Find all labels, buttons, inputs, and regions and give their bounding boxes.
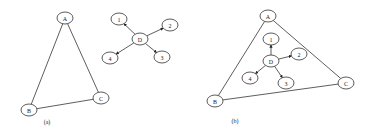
node-3: 3	[278, 77, 294, 89]
node-2: 2	[291, 48, 307, 60]
panel-caption: (a)	[44, 119, 51, 126]
edge-D-2	[147, 28, 163, 36]
node-label: D	[138, 37, 143, 43]
edge-D-3	[275, 66, 283, 77]
node-B: B	[207, 95, 223, 107]
node-label: A	[63, 16, 68, 22]
node-B: B	[21, 104, 37, 116]
graph-diagram: ABCD1234(a) ABCD1234(b)	[0, 0, 372, 132]
node-4: 4	[102, 52, 118, 64]
node-label: 4	[109, 56, 112, 62]
node-2: 2	[162, 19, 178, 31]
node-1: 1	[111, 13, 127, 25]
edge-D-3	[145, 43, 156, 52]
edge-D-1	[124, 24, 135, 35]
edge-D-2	[279, 56, 292, 59]
node-label: B	[213, 99, 217, 105]
node-D: D	[132, 33, 148, 45]
edge-A-C	[273, 21, 340, 79]
panel-a: ABCD1234(a)	[21, 12, 178, 126]
node-C: C	[93, 92, 109, 104]
node-label: 1	[118, 17, 121, 23]
node-label: D	[269, 59, 274, 65]
node-label: 3	[161, 55, 164, 61]
panel-b: ABCD1234(b)	[207, 10, 354, 125]
node-label: C	[344, 81, 348, 87]
edge-D-4	[255, 65, 265, 73]
node-label: 2	[169, 23, 172, 29]
node-D: D	[263, 55, 279, 67]
edge-A-B	[31, 24, 62, 104]
edge-D-4	[116, 43, 134, 54]
node-label: 2	[298, 52, 301, 58]
node-C: C	[338, 77, 354, 89]
edge-A-B	[218, 21, 264, 95]
node-label: B	[27, 108, 31, 114]
node-3: 3	[154, 51, 170, 63]
node-label: 3	[285, 81, 288, 87]
node-1: 1	[263, 33, 279, 45]
edge-A-C	[68, 24, 99, 93]
node-label: A	[266, 14, 271, 20]
edge-B-C	[37, 99, 93, 108]
panel-caption: (b)	[232, 118, 239, 125]
node-A: A	[260, 10, 276, 22]
node-label: 4	[249, 76, 252, 82]
node-A: A	[57, 12, 73, 24]
node-4: 4	[242, 72, 258, 84]
node-label: C	[99, 96, 103, 102]
node-label: 1	[270, 37, 273, 43]
